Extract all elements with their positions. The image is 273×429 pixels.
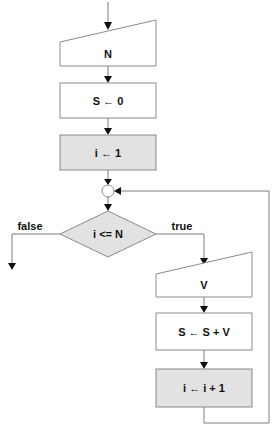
entry-arrowhead bbox=[104, 22, 112, 30]
input-v-label: V bbox=[200, 279, 208, 291]
arrowhead bbox=[104, 128, 112, 135]
condition-label: i <= N bbox=[93, 228, 123, 240]
init-s-label: S ← 0 bbox=[93, 95, 124, 107]
arrowhead bbox=[200, 306, 208, 313]
junction-connector bbox=[102, 185, 114, 197]
input-n-label: N bbox=[104, 48, 112, 60]
edge-true bbox=[156, 234, 204, 258]
arrowhead bbox=[200, 362, 208, 369]
arrowhead bbox=[104, 204, 112, 211]
incr-label: i ← i + 1 bbox=[183, 382, 225, 394]
arrowhead bbox=[104, 179, 112, 185]
accum-label: S ← S + V bbox=[178, 326, 230, 338]
init-i-label: i ← 1 bbox=[95, 147, 121, 159]
loop-arrowhead bbox=[114, 187, 121, 195]
false-arrowhead bbox=[8, 263, 16, 270]
arrowhead bbox=[104, 76, 112, 83]
flowchart: N S ← 0 i ← 1 i <= N false true V S ← S … bbox=[0, 0, 273, 429]
false-label: false bbox=[17, 220, 42, 232]
true-label: true bbox=[172, 220, 193, 232]
edge-false bbox=[12, 234, 60, 264]
